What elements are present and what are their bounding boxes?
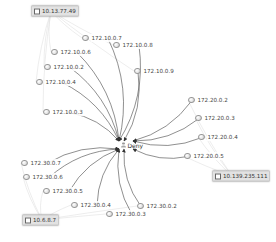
host-label: 10.6.8.7 [33,217,56,224]
globe-icon [43,109,50,116]
globe-icon [188,97,195,104]
host-icon [34,8,40,14]
host-icon [215,173,221,179]
ip-node[interactable]: 172.10.0.6 [51,48,92,56]
ip-node[interactable]: 172.20.0.5 [184,152,225,160]
node-label: 172.10.0.3 [52,108,84,116]
node-label: 172.10.0.8 [122,41,154,49]
node-label: 172.20.0.2 [197,96,229,104]
node-label: 172.30.0.7 [30,159,62,167]
host-label: 10.13.77.49 [42,8,76,15]
ip-node[interactable]: 172.30.0.4 [71,201,112,209]
ip-node[interactable]: 172.30.0.2 [137,202,178,210]
node-label: 172.10.0.4 [45,78,77,86]
ip-node[interactable]: 172.10.0.9 [134,67,175,75]
globe-icon [71,202,78,209]
node-label: 172.20.0.4 [207,133,239,141]
globe-icon [21,160,28,167]
globe-icon [137,203,144,210]
node-label: 172.20.0.5 [193,152,225,160]
node-label: 172.30.0.5 [52,187,84,195]
node-label: 172.30.0.6 [32,173,64,181]
host-icon [25,217,31,223]
node-label: 172.30.0.3 [115,210,147,218]
globe-icon [44,64,51,71]
globe-icon [82,35,89,42]
person-icon [121,143,126,148]
globe-icon [113,42,120,49]
ip-node[interactable]: 172.10.0.3 [43,108,84,116]
globe-icon [51,49,58,56]
globe-icon [134,68,141,75]
ip-node[interactable]: 172.20.0.3 [195,114,236,122]
ip-node[interactable]: 172.10.0.8 [113,41,154,49]
host-node[interactable]: 10.139.235.111 [212,171,270,182]
host-label: 10.139.235.111 [223,173,267,180]
ip-node[interactable]: 172.10.0.4 [36,78,77,86]
globe-icon [106,211,113,218]
ip-node[interactable]: 172.30.0.5 [43,187,84,195]
ip-node[interactable]: 172.20.0.2 [188,96,229,104]
ip-node[interactable]: 172.20.0.4 [198,133,239,141]
ip-node[interactable]: 172.30.0.6 [23,173,64,181]
globe-icon [23,174,30,181]
node-label: 172.10.0.9 [143,67,175,75]
node-label: 172.30.0.4 [80,201,112,209]
ip-node[interactable]: 172.30.0.3 [106,210,147,218]
globe-icon [36,79,43,86]
host-node[interactable]: 10.13.77.49 [31,6,79,17]
node-label: 172.10.0.2 [53,63,85,71]
node-label: 172.30.0.2 [146,202,178,210]
node-label: 172.20.0.3 [204,114,236,122]
globe-icon [195,115,202,122]
ip-node[interactable]: 172.30.0.7 [21,159,62,167]
globe-icon [43,188,50,195]
ip-node[interactable]: 172.10.0.2 [44,63,85,71]
globe-icon [184,153,191,160]
globe-icon [198,134,205,141]
host-node[interactable]: 10.6.8.7 [22,215,59,226]
deny-node[interactable]: Deny [121,142,143,149]
network-graph: 10.13.77.4910.139.235.11110.6.8.7172.10.… [0,0,276,242]
node-label: 172.10.0.6 [60,48,92,56]
deny-label: Deny [128,142,144,149]
